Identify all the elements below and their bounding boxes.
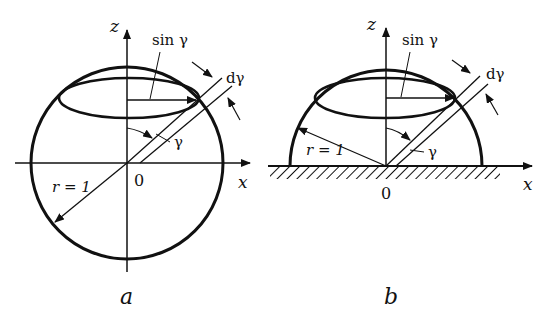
- panel-a: z x 0 sin γ dγ γ r = 1 a: [15, 16, 250, 309]
- z-axis-label: z: [109, 16, 120, 36]
- figure-canvas: z x 0 sin γ dγ γ r = 1 a z x: [0, 0, 550, 321]
- gamma-leader: [156, 134, 170, 142]
- panel-a-caption: a: [120, 284, 133, 309]
- gamma-label: γ: [428, 143, 437, 161]
- gamma-angle-arc: [386, 128, 410, 140]
- latitude-ring: [59, 78, 199, 118]
- x-axis-label: x: [523, 174, 533, 194]
- gamma-angle-arc: [127, 128, 152, 138]
- sin-gamma-label: sin γ: [402, 31, 438, 49]
- radius-label: r = 1: [52, 178, 91, 196]
- d-gamma-arrow-top: [192, 62, 212, 77]
- sin-gamma-leader: [150, 52, 160, 99]
- ground-hatching: [270, 167, 500, 179]
- d-gamma-label: dγ: [226, 69, 245, 87]
- origin-label: 0: [381, 184, 391, 203]
- panel-b: z x 0 sin γ dγ γ r = 1 b: [268, 14, 533, 309]
- gamma-label: γ: [174, 133, 183, 151]
- sin-gamma-label: sin γ: [152, 31, 188, 49]
- radial-line-2: [140, 86, 232, 163]
- sin-gamma-leader: [401, 52, 410, 97]
- origin-label: 0: [134, 171, 144, 190]
- z-axis-label: z: [366, 14, 377, 34]
- panel-b-caption: b: [384, 284, 398, 309]
- d-gamma-arrow-top: [452, 60, 470, 73]
- radius-label: r = 1: [306, 141, 345, 159]
- d-gamma-label: dγ: [486, 65, 505, 83]
- d-gamma-arrow-bottom: [486, 94, 498, 115]
- d-gamma-arrow-bottom: [228, 98, 240, 120]
- x-axis-label: x: [238, 172, 248, 192]
